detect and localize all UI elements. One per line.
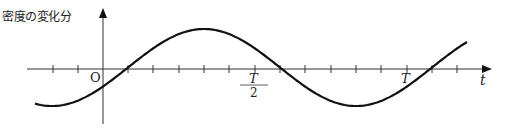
y-axis-label: 密度の変化分 xyxy=(2,7,71,24)
origin-label: O xyxy=(90,70,101,85)
x-axis-label: t xyxy=(480,72,486,88)
period-label: T xyxy=(401,71,410,86)
y-axis-arrow-icon xyxy=(99,8,107,18)
wave-plot xyxy=(0,0,507,129)
half-period-denominator: 2 xyxy=(250,86,258,100)
density-wave-diagram: 密度の変化分 O T 2 T t xyxy=(0,0,507,129)
half-period-numerator: T xyxy=(249,71,258,86)
